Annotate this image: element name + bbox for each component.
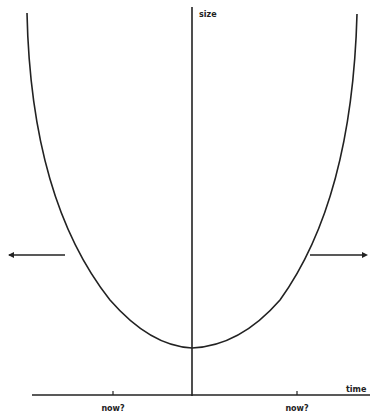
left-arrow-icon: [8, 252, 65, 258]
y-axis-label: size: [199, 10, 217, 19]
right-arrow-icon: [310, 252, 368, 258]
tick-label-right: now?: [285, 404, 309, 413]
tick-label-left: now?: [101, 404, 125, 413]
diagram-canvas: size time now? now?: [0, 0, 379, 420]
x-axis-label: time: [346, 385, 367, 394]
